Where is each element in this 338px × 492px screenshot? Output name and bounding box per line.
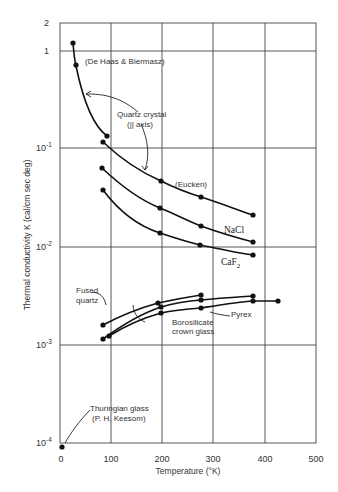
y-tick-1e-3: 10-3 — [36, 338, 52, 350]
x-tick-0: 0 — [58, 454, 63, 464]
label-quartz-crystal: Quartz crystal — [117, 110, 167, 119]
y-axis-ticks: 2 1 10-1 10-2 10-3 10-4 — [36, 18, 52, 448]
label-de-haas: (De Haas & Biermasz) — [85, 57, 165, 66]
x-tick-400: 400 — [257, 454, 272, 464]
x-axis-ticks: 0 100 200 300 400 500 — [58, 454, 323, 464]
label-fused: Fused — [76, 286, 98, 295]
y-tick-1e-4: 10-4 — [36, 436, 52, 448]
y-tick-1e-1: 10-1 — [36, 141, 52, 153]
x-tick-300: 300 — [205, 454, 220, 464]
x-tick-200: 200 — [154, 454, 169, 464]
data-points — [59, 40, 280, 449]
label-quartz: quartz — [76, 296, 98, 305]
thermal-conductivity-chart: 2 1 10-1 10-2 10-3 10-4 0 100 200 300 40… — [0, 0, 338, 492]
label-caf2: CaF2 — [221, 257, 241, 270]
label-borosilicate: Borosilicate — [172, 318, 214, 327]
y-tick-2: 2 — [44, 18, 49, 28]
label-crown-glass: crown glass — [172, 327, 214, 336]
label-pyrex: Pyrex — [231, 310, 251, 319]
label-nacl: NaCl — [224, 225, 244, 235]
y-tick-1e-2: 10-2 — [36, 240, 52, 252]
plot-frame — [60, 23, 316, 443]
curve-quartz-eucken — [103, 142, 253, 215]
y-axis-title: Thermal conductivity K (cal/cm sec deg) — [22, 159, 32, 310]
curve-labels: (De Haas & Biermasz) Quartz crystal (|| … — [76, 57, 251, 423]
label-keesom: (P. H. Keesom) — [92, 414, 146, 423]
label-thuringian: Thuringian glass — [90, 404, 149, 413]
curve-caf2 — [103, 190, 253, 255]
annotation-arrows — [65, 91, 230, 443]
x-axis-title: Temperature (°K) — [156, 466, 221, 476]
label-quartz-axis: (|| axis) — [127, 120, 153, 129]
plot-grid — [60, 23, 316, 443]
y-tick-1: 1 — [44, 46, 49, 56]
label-eucken: (Eucken) — [175, 180, 207, 189]
x-tick-100: 100 — [103, 454, 118, 464]
x-tick-500: 500 — [308, 454, 323, 464]
